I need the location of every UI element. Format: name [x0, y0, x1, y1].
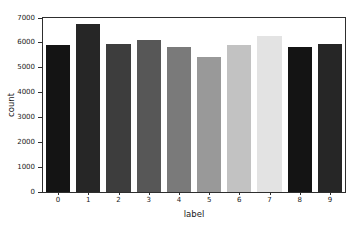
x-tick-label: 0: [56, 196, 60, 204]
y-tick-mark: [38, 92, 42, 93]
y-tick-label: 1000: [17, 163, 35, 172]
bar-cell-4: [164, 18, 194, 192]
bar-1: [76, 24, 100, 192]
x-tick-label: 7: [267, 196, 271, 204]
x-tick-0: 0: [43, 192, 73, 205]
x-tick-label: 5: [207, 196, 211, 204]
y-tick-mark: [38, 117, 42, 118]
x-tick-7: 7: [254, 192, 284, 205]
bars-container: [43, 18, 345, 192]
bar-6: [227, 45, 251, 192]
y-tick-mark: [38, 192, 42, 193]
bar-cell-8: [285, 18, 315, 192]
x-tick-label: 3: [146, 196, 150, 204]
x-tick-label: 1: [86, 196, 90, 204]
x-tick-mark: [58, 192, 59, 195]
x-tick-mark: [239, 192, 240, 195]
y-tick-mark: [38, 67, 42, 68]
y-tick-label: 6000: [17, 38, 35, 47]
bar-cell-6: [224, 18, 254, 192]
bar-chart-figure: count label 0100020003000400050006000700…: [0, 0, 355, 231]
y-tick-label: 7000: [17, 14, 35, 23]
x-tick-mark: [179, 192, 180, 195]
x-tick-mark: [119, 192, 120, 195]
bar-2: [106, 44, 130, 192]
x-tick-mark: [88, 192, 89, 195]
x-tick-mark: [330, 192, 331, 195]
x-tick-label: 9: [328, 196, 332, 204]
x-tick-label: 2: [116, 196, 120, 204]
x-tick-1: 1: [73, 192, 103, 205]
bar-4: [167, 47, 191, 192]
x-tick-mark: [149, 192, 150, 195]
x-tick-6: 6: [224, 192, 254, 205]
x-tick-mark: [209, 192, 210, 195]
bar-9: [318, 44, 342, 192]
x-tick-2: 2: [103, 192, 133, 205]
bar-cell-5: [194, 18, 224, 192]
y-tick-mark: [38, 167, 42, 168]
x-tick-4: 4: [164, 192, 194, 205]
bar-8: [288, 47, 312, 192]
x-tick-label: 4: [177, 196, 181, 204]
x-tick-9: 9: [315, 192, 345, 205]
bar-5: [197, 57, 221, 192]
y-tick-mark: [38, 42, 42, 43]
y-tick-mark: [38, 18, 42, 19]
bar-cell-9: [315, 18, 345, 192]
x-tick-mark: [300, 192, 301, 195]
x-tick-3: 3: [134, 192, 164, 205]
bar-cell-2: [103, 18, 133, 192]
x-tick-mark: [270, 192, 271, 195]
y-tick-label: 2000: [17, 138, 35, 147]
y-tick-label: 5000: [17, 63, 35, 72]
x-tick-label: 8: [297, 196, 301, 204]
y-tick-label: 3000: [17, 113, 35, 122]
x-axis-label: label: [184, 209, 205, 219]
x-tick-label: 6: [237, 196, 241, 204]
bar-cell-3: [134, 18, 164, 192]
x-tick-8: 8: [285, 192, 315, 205]
bar-0: [46, 45, 70, 192]
x-tick-5: 5: [194, 192, 224, 205]
y-axis-label: count: [6, 93, 16, 117]
y-tick-label: 0: [31, 188, 35, 197]
bar-cell-1: [73, 18, 103, 192]
plot-area: 01000200030004000500060007000 0123456789: [42, 17, 346, 193]
bar-cell-7: [254, 18, 284, 192]
y-tick-mark: [38, 142, 42, 143]
y-tick-label: 4000: [17, 88, 35, 97]
bar-cell-0: [43, 18, 73, 192]
bar-3: [137, 40, 161, 192]
bar-7: [257, 36, 281, 192]
x-axis-ticks: 0123456789: [43, 192, 345, 205]
